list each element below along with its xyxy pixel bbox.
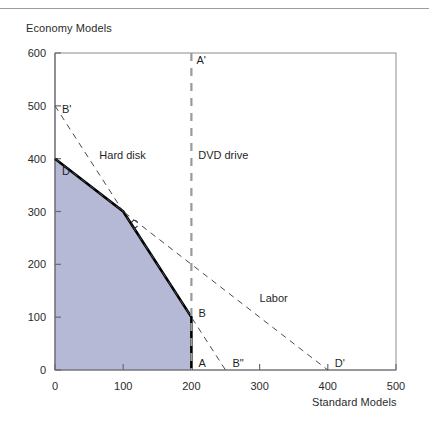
- x-tick-label: 0: [52, 380, 58, 392]
- feasible-region: [55, 159, 191, 370]
- annotation-d: D: [62, 165, 70, 177]
- x-tick-label: 500: [387, 380, 405, 392]
- y-tick-label: 200: [28, 258, 46, 270]
- y-tick-label: 100: [28, 311, 46, 323]
- annotation-a: A': [196, 54, 205, 66]
- annotation-a: A: [198, 357, 206, 369]
- annotation-dvddrive: DVD drive: [198, 149, 248, 161]
- plot-area: 01002003004005006000100200300400500 A'B'…: [0, 0, 429, 435]
- y-tick-label: 0: [40, 364, 46, 376]
- y-tick-label: 500: [28, 100, 46, 112]
- x-tick-label: 100: [114, 380, 132, 392]
- chart-figure: Economy Models Standard Models 010020030…: [0, 0, 429, 435]
- annotation-d: D': [335, 357, 345, 369]
- x-tick-label: 400: [319, 380, 337, 392]
- y-tick-label: 400: [28, 153, 46, 165]
- x-tick-label: 200: [182, 380, 200, 392]
- annotation-c: C: [130, 218, 138, 230]
- annotation-labor: Labor: [260, 292, 288, 304]
- annotation-b: B': [62, 103, 71, 115]
- y-tick-label: 300: [28, 206, 46, 218]
- annotation-b: B": [233, 357, 244, 369]
- annotation-b: B: [198, 307, 205, 319]
- annotation-harddisk: Hard disk: [99, 149, 146, 161]
- x-tick-label: 300: [250, 380, 268, 392]
- y-tick-label: 600: [28, 47, 46, 59]
- shaded-region-layer: [55, 159, 191, 370]
